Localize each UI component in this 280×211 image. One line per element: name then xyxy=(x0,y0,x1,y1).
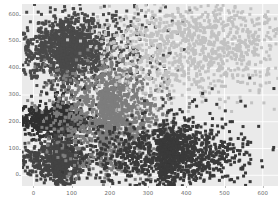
y-tick-mark xyxy=(19,41,21,42)
x-tick-label: 500 xyxy=(219,191,230,196)
x-tick-label: 200 xyxy=(105,191,116,196)
y-tick-mark xyxy=(19,95,21,96)
y-tick-mark xyxy=(19,68,21,69)
x-tick-mark xyxy=(225,186,226,188)
y-tick-mark xyxy=(19,175,21,176)
y-tick-mark xyxy=(19,149,21,150)
x-tick-mark xyxy=(33,186,34,188)
y-tick-label: 400 xyxy=(8,65,19,70)
scatter-plot-figure: 0100200300400500600 0100200300400500600 xyxy=(0,0,280,211)
x-tick-label: 0 xyxy=(32,191,36,196)
y-tick-label: 500 xyxy=(8,38,19,43)
x-tick-mark xyxy=(263,186,264,188)
x-tick-mark xyxy=(148,186,149,188)
y-tick-mark xyxy=(19,15,21,16)
plot-area xyxy=(22,4,278,186)
x-axis-ticks: 0100200300400500600 xyxy=(0,191,280,203)
y-tick-label: 600 xyxy=(8,12,19,17)
x-tick-label: 100 xyxy=(66,191,77,196)
x-tick-label: 300 xyxy=(143,191,154,196)
y-axis-ticks: 0100200300400500600 xyxy=(0,0,19,211)
x-tick-mark xyxy=(110,186,111,188)
x-tick-mark xyxy=(186,186,187,188)
x-tick-label: 600 xyxy=(257,191,268,196)
y-tick-label: 100 xyxy=(8,146,19,151)
x-tick-label: 400 xyxy=(181,191,192,196)
y-tick-label: 300 xyxy=(8,92,19,97)
y-tick-label: 200 xyxy=(8,119,19,124)
scatter-points xyxy=(22,4,278,186)
y-tick-mark xyxy=(19,122,21,123)
x-tick-mark xyxy=(72,186,73,188)
